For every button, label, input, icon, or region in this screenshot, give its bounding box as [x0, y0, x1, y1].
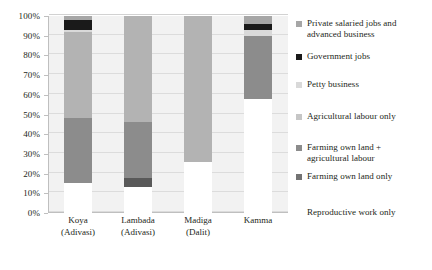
legend-label-line1: Government jobs: [307, 51, 370, 61]
y-axis-tick-label: 100%: [19, 12, 40, 21]
bar-segment[interactable]: [64, 118, 92, 183]
legend-swatch: [296, 145, 302, 151]
legend-swatch: [296, 54, 302, 60]
x-axis-tick-label: Kamma: [244, 215, 273, 227]
y-axis-tick-label: 30%: [23, 149, 40, 158]
bar-segment[interactable]: [64, 30, 92, 32]
legend-item[interactable]: Reproductive work only: [296, 207, 432, 218]
x-axis-label-line1: Lambada: [121, 215, 154, 225]
legend-label: Government jobs: [307, 51, 370, 62]
legend-swatch: [296, 210, 302, 216]
legend-label-line1: Agricultural labour only: [307, 111, 396, 121]
bar-segment[interactable]: [244, 99, 272, 213]
x-axis-label-line2: (Dalit): [184, 227, 212, 239]
legend-label: Petty business: [307, 79, 359, 90]
x-axis-tick-label: Lambada(Adivasi): [121, 215, 155, 238]
legend-label-line1: Farming own land only: [307, 171, 392, 181]
legend-swatch: [296, 21, 302, 27]
legend-label-line1: Farming own land +: [307, 142, 381, 152]
x-axis-tick-label: Koya(Adivasi): [61, 215, 95, 238]
y-axis-tick-label: 60%: [23, 90, 40, 99]
x-axis-label-line2: (Adivasi): [121, 227, 155, 239]
legend-item[interactable]: Farming own land only: [296, 171, 432, 182]
y-axis-tick-label: 20%: [23, 169, 40, 178]
bar-slot: [228, 16, 288, 213]
legend-label: Farming own land only: [307, 171, 392, 182]
x-axis-label-line1: Kamma: [244, 215, 273, 225]
bar-segment[interactable]: [64, 16, 92, 20]
y-axis-tick-label: 70%: [23, 71, 40, 80]
bar-slot: [108, 16, 168, 213]
x-axis-tick-label: Madiga(Dalit): [184, 215, 212, 238]
bar-segment[interactable]: [244, 16, 272, 24]
legend-item[interactable]: Government jobs: [296, 51, 432, 62]
bar-segment[interactable]: [124, 16, 152, 122]
y-axis-tick-label: 40%: [23, 130, 40, 139]
y-axis: 0%10%20%30%40%50%60%70%80%90%100%: [0, 16, 44, 213]
legend-swatch: [296, 174, 302, 180]
gridline: [49, 14, 288, 15]
bar-segment[interactable]: [244, 24, 272, 30]
bar-segment[interactable]: [124, 187, 152, 213]
y-axis-tick-label: 10%: [23, 189, 40, 198]
legend-label: Farming own land +agricultural labour: [307, 142, 381, 164]
x-axis: Koya(Adivasi)Lambada(Adivasi)Madiga(Dali…: [48, 215, 288, 255]
y-axis-tick-label: 0%: [28, 209, 40, 218]
bar-segment[interactable]: [64, 20, 92, 30]
legend-item[interactable]: Farming own land +agricultural labour: [296, 142, 432, 164]
bar-segment[interactable]: [244, 36, 272, 99]
y-axis-tick-label: 90%: [23, 31, 40, 40]
bar-segment[interactable]: [184, 162, 212, 213]
bar-slot: [168, 16, 228, 213]
legend-label: Private salaried jobs andadvanced busine…: [307, 18, 396, 40]
bar-segment[interactable]: [124, 122, 152, 177]
legend-swatch: [296, 82, 302, 88]
stacked-bar[interactable]: [244, 16, 272, 213]
legend-item[interactable]: Petty business: [296, 79, 432, 90]
y-axis-tick-mark: [44, 213, 48, 214]
legend-label: Agricultural labour only: [307, 111, 396, 122]
legend-label: Reproductive work only: [307, 207, 396, 218]
bar-group: [48, 16, 288, 213]
bar-segment[interactable]: [244, 30, 272, 36]
legend-label-line2: agricultural labour: [307, 153, 381, 164]
stacked-bar-chart: 0%10%20%30%40%50%60%70%80%90%100% Koya(A…: [0, 0, 432, 270]
x-axis-label-line1: Madiga: [184, 215, 212, 225]
legend-label-line1: Private salaried jobs and: [307, 18, 396, 28]
bar-segment[interactable]: [64, 183, 92, 213]
stacked-bar[interactable]: [64, 16, 92, 213]
x-axis-label-line1: Koya: [68, 215, 88, 225]
legend-item[interactable]: Private salaried jobs andadvanced busine…: [296, 18, 432, 40]
y-axis-tick-label: 50%: [23, 110, 40, 119]
legend-label-line1: Reproductive work only: [307, 207, 396, 217]
bar-segment[interactable]: [64, 32, 92, 119]
x-axis-label-line2: (Adivasi): [61, 227, 95, 239]
bar-slot: [48, 16, 108, 213]
legend-label-line1: Petty business: [307, 79, 359, 89]
legend-item[interactable]: Agricultural labour only: [296, 111, 432, 122]
bar-segment[interactable]: [124, 178, 152, 188]
legend-label-line2: advanced business: [307, 29, 396, 40]
bar-segment[interactable]: [184, 16, 212, 162]
stacked-bar[interactable]: [184, 16, 212, 213]
y-axis-tick-label: 80%: [23, 51, 40, 60]
stacked-bar[interactable]: [124, 16, 152, 213]
legend-swatch: [296, 114, 302, 120]
